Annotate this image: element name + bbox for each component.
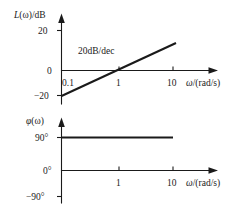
phase-xtick-label-10: 10 <box>167 178 177 188</box>
magnitude-xtick-label-10: 10 <box>167 78 177 88</box>
phase-y-axis-title-rest: (ω) <box>31 116 44 127</box>
magnitude-y-axis-arrow-icon <box>58 14 65 24</box>
phase-y-axis-arrow-icon <box>58 118 65 128</box>
magnitude-ytick-label-neg20: −20 <box>34 91 49 101</box>
magnitude-ytick-label-0: 0 <box>47 66 52 76</box>
bode-plot-canvas: L(ω)/dB 20 0 −20 0.1 1 10 ω/(rad/s) 20dB… <box>0 0 243 213</box>
phase-ytick-label-neg90: −90° <box>26 192 45 202</box>
phase-y-axis-title: φ(ω) <box>26 116 44 127</box>
phase-plot: φ(ω) 90° 0° −90° 1 10 ω/(rad/s) <box>26 116 220 203</box>
magnitude-xtick-label-1: 1 <box>116 78 121 88</box>
magnitude-y-axis-title-rest: (ω)/dB <box>19 10 45 21</box>
phase-ytick-label-90: 90° <box>35 133 49 143</box>
magnitude-xtick-label-0p1: 0.1 <box>62 78 74 88</box>
phase-x-axis-arrow-icon <box>209 167 219 173</box>
phase-xtick-label-1: 1 <box>116 178 121 188</box>
bode-plot-figure: L(ω)/dB 20 0 −20 0.1 1 10 ω/(rad/s) 20dB… <box>0 0 243 213</box>
phase-x-axis-title-rest: /(rad/s) <box>193 178 220 189</box>
magnitude-x-axis-title-rest: /(rad/s) <box>193 78 220 89</box>
phase-x-axis-title: ω/(rad/s) <box>186 178 220 189</box>
slope-annotation: 20dB/dec <box>78 46 114 56</box>
magnitude-y-axis-title: L(ω)/dB <box>13 10 46 21</box>
magnitude-ytick-label-20: 20 <box>38 26 48 36</box>
magnitude-x-axis-arrow-icon <box>209 67 219 73</box>
magnitude-x-axis-title: ω/(rad/s) <box>186 78 220 89</box>
phase-ytick-label-0: 0° <box>43 166 52 176</box>
magnitude-plot: L(ω)/dB 20 0 −20 0.1 1 10 ω/(rad/s) 20dB… <box>13 10 220 104</box>
